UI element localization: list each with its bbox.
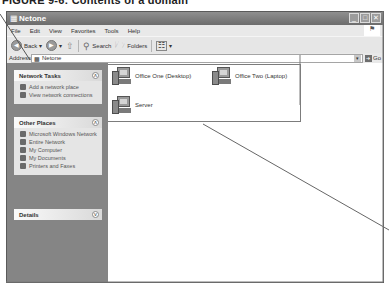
- collapse-chevron-icon[interactable]: ˄: [92, 119, 99, 126]
- menu-tools[interactable]: Tools: [105, 28, 119, 34]
- menu-help[interactable]: Help: [128, 28, 140, 34]
- printer-icon: [20, 163, 26, 169]
- menu-bar: File Edit View Favorites Tools Help ⚑: [7, 25, 383, 36]
- entire-network-link[interactable]: Entire Network: [20, 139, 98, 146]
- maximize-button[interactable]: □: [360, 13, 370, 23]
- other-places-panel: Other Places ˄ Microsoft Windows Network…: [14, 117, 102, 175]
- folders-label: Folders: [127, 43, 147, 49]
- my-documents-link[interactable]: My Documents: [20, 155, 98, 162]
- network-tasks-panel: Network Tasks ˄ Add a network place View…: [14, 70, 102, 104]
- link-label: Microsoft Windows Network: [29, 131, 97, 138]
- my-computer-link[interactable]: My Computer: [20, 147, 98, 154]
- search-label: Search: [92, 43, 111, 49]
- forward-button[interactable]: ▶ ▾: [46, 40, 62, 51]
- my-computer-icon: [20, 147, 26, 153]
- link-label: Entire Network: [29, 139, 65, 146]
- dropdown-arrow-icon[interactable]: ▾: [59, 42, 62, 49]
- microsoft-windows-network-link[interactable]: Microsoft Windows Network: [20, 131, 98, 138]
- computer-icon: [212, 67, 232, 85]
- add-network-place-icon: [20, 84, 26, 90]
- address-bar: Address ▩ Netone ▾ ➜ Go: [7, 53, 383, 63]
- search-button[interactable]: ⚲ Search: [83, 41, 111, 51]
- link-label: View network connections: [29, 92, 93, 99]
- back-button[interactable]: ◀ Back ▾: [11, 40, 42, 51]
- link-label: My Documents: [29, 155, 66, 162]
- go-arrow-icon: ➜: [365, 55, 372, 62]
- toolbar-separator: [151, 40, 152, 52]
- link-label: Printers and Faxes: [29, 163, 75, 170]
- computer-icon: [112, 96, 132, 114]
- menu-file[interactable]: File: [11, 28, 21, 34]
- network-icon: ▩: [34, 55, 40, 62]
- details-header[interactable]: Details ˅: [14, 209, 102, 220]
- explorer-window: ▦ Netone _ □ ✕ File Edit View Favorites …: [6, 11, 384, 283]
- computer-label: Office One (Desktop): [135, 73, 191, 79]
- globe-network-icon: [20, 131, 26, 137]
- toolbar: ◀ Back ▾ ▶ ▾ ⇧ ⚲ Search 🗁 Folders ☷ ▾: [7, 36, 383, 54]
- computer-item[interactable]: Server: [112, 96, 153, 114]
- file-list-area[interactable]: Office One (Desktop) Office Two (Laptop)…: [108, 63, 383, 282]
- network-tasks-header[interactable]: Network Tasks ˄: [14, 70, 102, 81]
- dropdown-arrow-icon: ▾: [169, 42, 172, 49]
- details-panel: Details ˅: [14, 209, 102, 220]
- title-bar: ▦ Netone _ □ ✕: [7, 12, 383, 25]
- view-network-connections-link[interactable]: View network connections: [20, 92, 98, 99]
- panel-title: Details: [19, 212, 39, 218]
- views-button[interactable]: ☷ ▾: [156, 41, 172, 51]
- menu-edit[interactable]: Edit: [30, 28, 40, 34]
- back-label: Back: [24, 43, 37, 49]
- other-places-header[interactable]: Other Places ˄: [14, 117, 102, 128]
- menu-view[interactable]: View: [49, 28, 62, 34]
- computer-label: Server: [135, 102, 153, 108]
- link-label: My Computer: [29, 147, 62, 154]
- panel-title: Network Tasks: [19, 73, 61, 79]
- close-button[interactable]: ✕: [371, 13, 381, 23]
- windows-logo-icon: ⚑: [364, 25, 380, 36]
- minimize-button[interactable]: _: [349, 13, 359, 23]
- expand-chevron-icon[interactable]: ˅: [92, 211, 99, 218]
- network-connections-icon: [20, 92, 26, 98]
- computer-item[interactable]: Office One (Desktop): [112, 67, 191, 85]
- folders-icon: 🗁: [115, 39, 125, 53]
- computer-item[interactable]: Office Two (Laptop): [212, 67, 287, 85]
- panel-title: Other Places: [19, 120, 56, 126]
- entire-network-icon: [20, 139, 26, 145]
- network-folder-icon: ▦: [10, 14, 18, 23]
- dropdown-arrow-icon[interactable]: ▾: [39, 42, 42, 49]
- toolbar-separator: [78, 40, 79, 52]
- address-label: Address: [7, 55, 31, 61]
- back-arrow-icon: ◀: [11, 40, 22, 51]
- printers-and-faxes-link[interactable]: Printers and Faxes: [20, 163, 98, 170]
- up-folder-icon[interactable]: ⇧: [66, 41, 74, 51]
- address-dropdown-icon[interactable]: ▾: [354, 55, 361, 62]
- add-network-place-link[interactable]: Add a network place: [20, 84, 98, 91]
- search-icon: ⚲: [83, 41, 90, 51]
- forward-arrow-icon: ▶: [46, 40, 57, 51]
- figure-caption: FIGURE 9-6: Contents of a domain: [2, 0, 188, 6]
- menu-favorites[interactable]: Favorites: [71, 28, 96, 34]
- window-title: Netone: [19, 14, 46, 23]
- folders-button[interactable]: 🗁 Folders: [115, 39, 147, 53]
- go-label: Go: [373, 55, 381, 61]
- address-input[interactable]: ▩ Netone ▾: [31, 54, 363, 63]
- link-label: Add a network place: [29, 84, 79, 91]
- views-icon: ☷: [156, 41, 167, 51]
- computer-icon: [112, 67, 132, 85]
- go-button[interactable]: ➜ Go: [363, 55, 383, 62]
- address-value: Netone: [42, 55, 61, 61]
- task-pane: Network Tasks ˄ Add a network place View…: [7, 63, 108, 282]
- collapse-chevron-icon[interactable]: ˄: [92, 72, 99, 79]
- my-documents-icon: [20, 155, 26, 161]
- computer-label: Office Two (Laptop): [235, 73, 287, 79]
